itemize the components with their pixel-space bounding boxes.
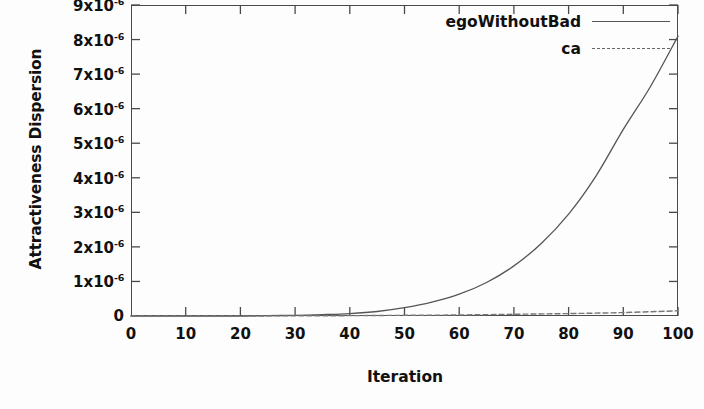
x-tick-label: 0 bbox=[126, 325, 136, 343]
x-tick-label: 50 bbox=[394, 325, 415, 343]
y-tick-label: 0 bbox=[26, 307, 124, 325]
y-tick-label: 5x10-6 bbox=[26, 134, 124, 153]
x-tick-label: 80 bbox=[558, 325, 579, 343]
legend-entry: ca bbox=[408, 35, 670, 62]
y-tick-label: 8x10-6 bbox=[26, 30, 124, 49]
x-tick-label: 100 bbox=[662, 325, 693, 343]
y-tick-label: 7x10-6 bbox=[26, 65, 124, 84]
y-tick-label: 4x10-6 bbox=[26, 168, 124, 187]
legend-entry: egoWithoutBad bbox=[408, 8, 670, 35]
x-tick-label: 90 bbox=[613, 325, 634, 343]
x-tick-label: 60 bbox=[449, 325, 470, 343]
y-tick-label: 2x10-6 bbox=[26, 237, 124, 256]
legend-label: ca bbox=[561, 40, 581, 58]
x-tick-label: 70 bbox=[503, 325, 524, 343]
y-tick-label: 1x10-6 bbox=[26, 272, 124, 291]
legend-line-sample bbox=[592, 48, 670, 49]
x-tick-label: 10 bbox=[175, 325, 196, 343]
y-tick-label: 6x10-6 bbox=[26, 99, 124, 118]
x-tick-label: 40 bbox=[339, 325, 360, 343]
y-tick-label: 9x10-6 bbox=[26, 0, 124, 15]
y-axis-tick-labels: 01x10-62x10-63x10-64x10-65x10-66x10-67x1… bbox=[24, 0, 124, 409]
y-tick-label: 3x10-6 bbox=[26, 203, 124, 222]
x-tick-label: 30 bbox=[285, 325, 306, 343]
chart-legend: egoWithoutBadca bbox=[408, 8, 670, 62]
chart-figure: Attractiveness Dispersion 01x10-62x10-63… bbox=[0, 0, 704, 409]
x-tick-label: 20 bbox=[230, 325, 251, 343]
legend-line-sample bbox=[592, 21, 670, 22]
x-axis-title: Iteration bbox=[131, 368, 679, 386]
legend-label: egoWithoutBad bbox=[445, 13, 581, 31]
